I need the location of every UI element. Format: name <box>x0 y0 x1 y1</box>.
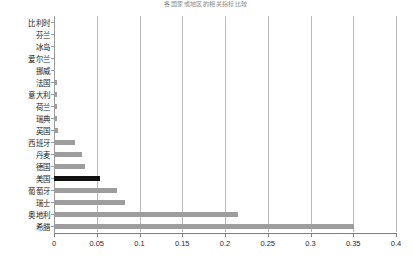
x-axis-tick <box>268 233 269 237</box>
x-axis-tick <box>396 233 397 237</box>
category-label: 葡萄牙 <box>0 185 54 196</box>
category-label: 意大利 <box>0 89 54 100</box>
category-label: 丹麦 <box>0 149 54 160</box>
gridline <box>140 16 141 232</box>
x-axis-tick <box>97 233 98 237</box>
bar <box>54 200 125 205</box>
x-axis-tick-label: 0 <box>52 239 56 248</box>
bar <box>54 140 75 145</box>
bar <box>54 212 238 217</box>
bar <box>54 116 57 121</box>
y-axis-tick <box>51 58 54 59</box>
chart-title: 各国家或地区的相关指标比较 <box>0 0 412 8</box>
category-label: 英国 <box>0 125 54 136</box>
x-axis-tick <box>182 233 183 237</box>
bar <box>54 104 57 109</box>
bar <box>54 128 58 133</box>
y-axis-tick <box>51 34 54 35</box>
category-label: 法国 <box>0 77 54 88</box>
bar <box>54 80 57 85</box>
bar <box>54 224 354 229</box>
category-label: 挪威 <box>0 65 54 76</box>
y-axis-tick <box>51 70 54 71</box>
y-axis-tick <box>51 22 54 23</box>
gridline <box>182 16 183 232</box>
category-label: 美国 <box>0 173 54 184</box>
category-label: 荷兰 <box>0 101 54 112</box>
category-label: 芬兰 <box>0 29 54 40</box>
gridline <box>396 16 397 232</box>
bar <box>54 152 82 157</box>
x-axis-tick-label: 0.3 <box>305 239 315 248</box>
gridline <box>353 16 354 232</box>
gridline <box>225 16 226 232</box>
category-label: 瑞典 <box>0 113 54 124</box>
gridline <box>311 16 312 232</box>
bar <box>54 188 117 193</box>
category-label: 奥地利 <box>0 209 54 220</box>
bar <box>54 164 85 169</box>
category-label: 爱尔兰 <box>0 53 54 64</box>
x-axis-tick <box>54 233 55 237</box>
category-label: 瑞士 <box>0 197 54 208</box>
x-axis-tick-label: 0.1 <box>134 239 144 248</box>
x-axis-tick-label: 0.4 <box>391 239 401 248</box>
chart-root: 各国家或地区的相关指标比较 00.050.10.150.20.250.30.35… <box>0 0 412 262</box>
category-label: 比利时 <box>0 17 54 28</box>
category-label: 西班牙 <box>0 137 54 148</box>
bar <box>54 92 57 97</box>
x-axis-tick-label: 0.2 <box>220 239 230 248</box>
x-axis-tick-label: 0.05 <box>89 239 104 248</box>
bar <box>54 176 100 181</box>
x-axis-tick-label: 0.25 <box>260 239 275 248</box>
x-axis-tick <box>140 233 141 237</box>
x-axis-tick <box>353 233 354 237</box>
x-axis-tick <box>311 233 312 237</box>
x-axis-tick-label: 0.15 <box>175 239 190 248</box>
x-axis-tick-label: 0.35 <box>346 239 361 248</box>
category-label: 希腊 <box>0 221 54 232</box>
gridline <box>268 16 269 232</box>
category-label: 冰岛 <box>0 41 54 52</box>
category-label: 德国 <box>0 161 54 172</box>
x-axis-tick <box>225 233 226 237</box>
y-axis-tick <box>51 46 54 47</box>
